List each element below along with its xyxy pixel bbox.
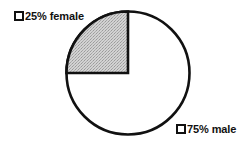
legend-label-male: 75% male xyxy=(176,123,236,135)
label-female-text: 25% female xyxy=(25,10,84,22)
legend-marker-square-icon xyxy=(176,124,186,134)
legend-label-female: 25% female xyxy=(14,10,84,22)
legend-marker-square-icon xyxy=(14,11,24,21)
label-male-text: 75% male xyxy=(187,123,236,135)
